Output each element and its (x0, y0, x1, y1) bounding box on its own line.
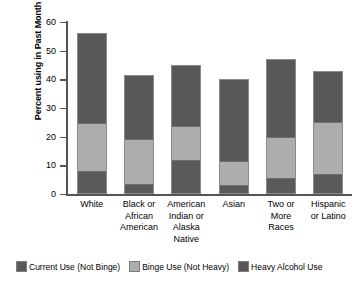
y-axis-tick-label: 50 (16, 46, 56, 55)
bar-segment (267, 60, 295, 138)
y-axis-tick-label: 10 (16, 161, 56, 170)
bar-3 (171, 65, 201, 194)
legend-item[interactable]: Current Use (Not Binge) (16, 261, 120, 272)
bar-segment (125, 140, 153, 185)
bar-segment (220, 80, 248, 162)
bar-segment (267, 138, 295, 179)
y-axis-tick-label: 60 (16, 18, 56, 27)
bar-4 (219, 79, 249, 194)
bar-segment (78, 172, 106, 193)
bar-segment (314, 72, 342, 123)
legend-label: Current Use (Not Binge) (29, 262, 120, 272)
plot-area (68, 22, 352, 194)
y-axis-tick-label: 30 (16, 104, 56, 113)
y-axis-tick (60, 194, 66, 195)
legend-label: Binge Use (Not Heavy) (142, 262, 229, 272)
bar-segment (220, 162, 248, 186)
x-axis-line (66, 194, 352, 196)
legend-item[interactable]: Heavy Alcohol Use (238, 261, 322, 272)
bar-segment (172, 127, 200, 161)
y-axis-tick (60, 79, 66, 80)
y-axis-tick-label: 0 (16, 190, 56, 199)
bar-5 (266, 59, 296, 194)
legend-swatch-icon (16, 261, 27, 272)
y-axis-tick (60, 165, 66, 166)
chart-legend: Current Use (Not Binge)Binge Use (Not He… (16, 261, 346, 272)
y-axis-tick (60, 22, 66, 23)
bar-segment (267, 179, 295, 193)
bar-segment (78, 124, 106, 172)
bar-segment (172, 161, 200, 193)
y-axis-tick (60, 137, 66, 138)
y-axis-tick (60, 108, 66, 109)
bar-segment (314, 175, 342, 193)
bar-segment (172, 66, 200, 127)
stacked-bar-chart: Percent using in Past Month 010203040506… (0, 0, 357, 286)
legend-label: Heavy Alcohol Use (251, 262, 322, 272)
legend-swatch-icon (129, 261, 140, 272)
bar-segment (125, 76, 153, 140)
y-axis-tick-label: 40 (16, 75, 56, 84)
bar-6 (313, 71, 343, 194)
legend-item[interactable]: Binge Use (Not Heavy) (129, 261, 229, 272)
y-axis-tick (60, 51, 66, 52)
x-axis-category-label: Hispanic or Latino (297, 199, 357, 222)
bar-segment (220, 186, 248, 193)
bar-segment (125, 185, 153, 193)
bar-1 (77, 33, 107, 194)
bar-segment (314, 123, 342, 175)
bar-segment (78, 34, 106, 123)
legend-swatch-icon (238, 261, 249, 272)
y-axis-tick-label: 20 (16, 132, 56, 141)
bar-2 (124, 75, 154, 194)
